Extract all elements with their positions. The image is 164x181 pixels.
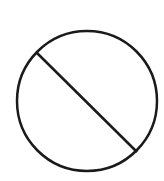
diagonal-slash [36,52,137,152]
prohibited-icon [0,0,164,181]
